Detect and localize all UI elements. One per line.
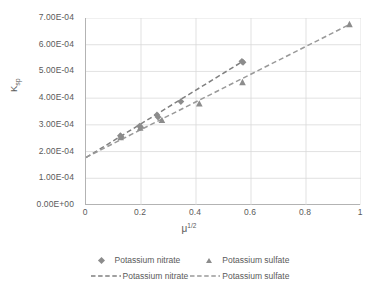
y-tick-label: 4.00E-04 <box>39 93 74 102</box>
x-tick-label: 0.4 <box>189 207 201 217</box>
y-tick-label: 3.00E-04 <box>39 120 74 129</box>
diamond-marker-icon <box>89 254 115 266</box>
dashed-line-icon <box>188 270 222 282</box>
y-tick-label: 1.00E-04 <box>39 173 74 182</box>
x-axis-title-superscript: 1/2 <box>187 222 196 229</box>
legend-label: Potassium sulfate <box>222 255 289 265</box>
plot-svg <box>86 18 361 205</box>
x-tick-label: 0.8 <box>299 207 311 217</box>
x-tick-label: 0.6 <box>244 207 256 217</box>
legend-row-trendlines: Potassium nitrate Potassium sulfate <box>0 268 378 284</box>
data-point-diamond <box>177 98 184 105</box>
legend-label: Potassium nitrate <box>123 271 189 281</box>
y-tick-label: 0.00E+00 <box>37 200 74 209</box>
y-axis-title-subscript: sp <box>14 78 21 85</box>
y-tick-label: 7.00E-04 <box>39 13 74 22</box>
x-tick-label: 0 <box>83 207 88 217</box>
legend-row-markers: Potassium nitrate Potassium sulfate <box>0 252 378 268</box>
x-axis-tick-labels: 00.20.40.60.81 <box>85 207 360 221</box>
data-point-triangle <box>346 21 353 27</box>
y-tick-label: 5.00E-04 <box>39 66 74 75</box>
y-tick-label: 6.00E-04 <box>39 40 74 49</box>
legend-entry-nitrate-marker[interactable]: Potassium nitrate <box>89 254 181 266</box>
x-axis-title: μ1/2 <box>0 222 378 234</box>
triangle-marker-icon <box>196 254 222 266</box>
legend-entry-sulfate-marker[interactable]: Potassium sulfate <box>196 254 289 266</box>
x-tick-label: 0.2 <box>134 207 146 217</box>
y-axis-title-main: K <box>8 86 19 92</box>
x-tick-label: 1 <box>358 207 363 217</box>
chart-legend: Potassium nitrate Potassium sulfate Pota… <box>0 252 378 284</box>
chart-container: 0.00E+001.00E-042.00E-043.00E-044.00E-04… <box>0 0 378 299</box>
y-axis-tick-labels: 0.00E+001.00E-042.00E-043.00E-044.00E-04… <box>0 18 80 205</box>
trendline <box>86 61 243 157</box>
legend-entry-sulfate-trendline[interactable]: Potassium sulfate <box>188 270 289 282</box>
y-tick-label: 2.00E-04 <box>39 147 74 156</box>
legend-entry-nitrate-trendline[interactable]: Potassium nitrate <box>89 270 189 282</box>
plot-area <box>85 18 360 205</box>
legend-label: Potassium nitrate <box>115 255 181 265</box>
dashed-line-icon <box>89 270 123 282</box>
legend-label: Potassium sulfate <box>222 271 289 281</box>
y-axis-title: Ksp <box>8 78 21 92</box>
